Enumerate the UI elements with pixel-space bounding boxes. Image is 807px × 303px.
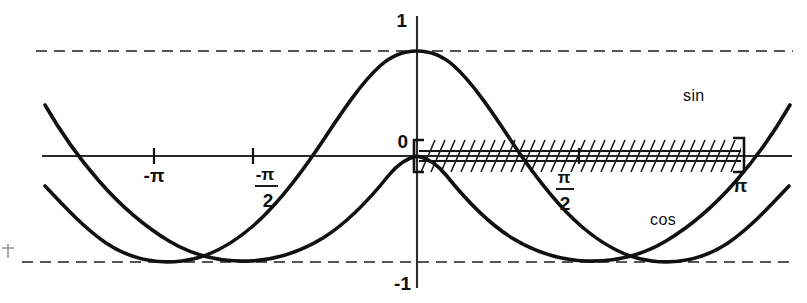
y-label-one: 1 [396,10,407,31]
x-label-half-pi-numerator: π [557,168,570,187]
plot-canvas: 1 0 -1 -π -π 2 π 2 π sin cos [0,0,807,303]
x-label-neg-half-pi-denominator: 2 [263,190,274,211]
trigonometric-function-plot: 1 0 -1 -π -π 2 π 2 π sin cos [0,0,807,303]
x-label-half-pi: π 2 [556,168,574,214]
x-label-neg-half-pi-numerator: -π [256,165,275,184]
cos-curve-label: cos [650,211,676,228]
x-label-neg-pi: -π [144,165,165,186]
y-label-zero: 0 [397,131,408,152]
x-label-half-pi-denominator: 2 [560,193,571,214]
y-label-minus-one: -1 [394,273,411,294]
sin-curve-label: sin [683,87,705,104]
x-label-pi: π [733,175,748,196]
